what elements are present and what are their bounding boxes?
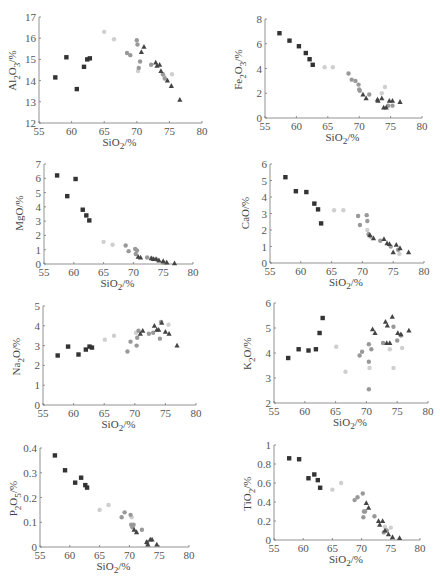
x-tick-label: 80 <box>415 542 427 554</box>
x-tick-label: 75 <box>385 542 397 554</box>
x-tick-label: 60 <box>68 407 80 419</box>
data-point-triangle <box>381 236 386 241</box>
y-tick-label: 4 <box>266 347 272 359</box>
data-point-triangle <box>394 242 399 247</box>
data-point-square <box>64 55 68 59</box>
data-point-circle <box>367 360 371 364</box>
data-point-circle <box>102 30 106 34</box>
data-point-circle <box>355 495 359 499</box>
y-tick-label: 1 <box>266 439 272 451</box>
data-point-square <box>306 476 310 480</box>
y-tick-label: 0.4 <box>23 442 37 454</box>
data-point-triangle <box>154 542 159 547</box>
data-point-circle <box>331 65 335 69</box>
data-point-circle <box>322 65 326 69</box>
data-point-square <box>306 348 310 352</box>
data-point-circle <box>128 53 132 57</box>
plot-area: 55606570758002468 <box>220 0 440 145</box>
data-point-circle <box>397 252 401 256</box>
data-point-circle <box>367 342 371 346</box>
y-tick-label: 5 <box>36 187 42 199</box>
x-tick-label: 75 <box>154 549 166 561</box>
data-point-circle <box>365 228 369 232</box>
data-point-square <box>76 352 80 356</box>
data-point-square <box>82 65 86 69</box>
x-axis-label: SiO2/% <box>329 553 363 568</box>
data-point-circle <box>367 366 371 370</box>
data-point-circle <box>97 508 101 512</box>
y-tick-label: 12 <box>25 117 36 129</box>
scatter-panel-fe2o3: 55606570758002468SiO2/%Fe2O3/% <box>220 0 440 145</box>
y-tick-label: 0.8 <box>257 458 271 470</box>
data-point-square <box>84 213 88 217</box>
y-tick-label: 0 <box>36 258 42 270</box>
x-tick-label: 60 <box>298 542 310 554</box>
data-point-circle <box>341 208 345 212</box>
x-tick-label: 80 <box>188 266 200 278</box>
data-point-square <box>65 194 69 198</box>
y-tick-label: 0 <box>262 257 268 269</box>
data-point-circle <box>388 347 392 351</box>
x-axis-label: SiO2/% <box>97 560 131 575</box>
y-tick-label: 4 <box>36 201 42 213</box>
y-tick-label: 16 <box>25 32 37 44</box>
data-point-triangle <box>406 249 411 254</box>
data-point-circle <box>138 59 142 63</box>
data-point-circle <box>334 345 338 349</box>
data-point-triangle <box>177 97 182 102</box>
y-tick-label: 14 <box>25 75 37 87</box>
data-point-circle <box>356 82 360 86</box>
data-point-circle <box>170 72 174 76</box>
x-tick-label: 75 <box>385 120 397 132</box>
data-point-square <box>90 345 94 349</box>
data-point-circle <box>135 248 139 252</box>
scatter-panel-mgo: 55606570758001234567SiO2/%MgO/% <box>0 140 220 285</box>
data-point-triangle <box>139 49 144 54</box>
data-point-circle <box>383 85 387 89</box>
data-point-circle <box>122 510 126 514</box>
data-point-square <box>320 316 324 320</box>
x-tick-label: 75 <box>392 405 404 417</box>
data-point-circle <box>369 347 373 351</box>
data-point-triangle <box>153 60 158 65</box>
x-tick-label: 60 <box>291 120 303 132</box>
data-point-circle <box>358 89 362 93</box>
y-tick-label: 3 <box>266 372 272 384</box>
y-tick-label: 0.6 <box>257 477 271 489</box>
y-tick-label: 3 <box>35 340 41 352</box>
y-tick-label: 2 <box>266 397 272 409</box>
data-point-square <box>314 347 318 351</box>
y-tick-label: 0.4 <box>257 496 271 508</box>
data-point-circle <box>131 523 135 527</box>
data-point-triangle <box>397 535 402 540</box>
data-point-circle <box>395 338 399 342</box>
data-point-square <box>286 356 290 360</box>
data-point-circle <box>390 103 394 107</box>
y-tick-label: 0 <box>35 399 41 411</box>
data-point-square <box>88 56 92 60</box>
data-point-circle <box>137 66 141 70</box>
x-tick-label: 60 <box>299 405 311 417</box>
data-point-circle <box>361 491 365 495</box>
data-point-square <box>316 207 320 211</box>
x-tick-label: 75 <box>388 265 400 277</box>
data-point-triangle <box>163 329 168 334</box>
y-axis-label: Al2O3/% <box>6 41 21 101</box>
y-tick-label: 3 <box>262 208 268 220</box>
plot-area: 55606570758000.10.20.30.4 <box>0 425 220 570</box>
x-tick-label: 75 <box>160 407 172 419</box>
data-point-circle <box>380 91 384 95</box>
y-axis-label: MgO/% <box>13 183 25 243</box>
y-axis-label: Na2O/% <box>10 326 25 386</box>
x-tick-label: 80 <box>197 125 209 137</box>
data-point-square <box>53 75 57 79</box>
data-point-square <box>311 63 315 67</box>
data-point-circle <box>363 509 367 513</box>
data-point-triangle <box>172 260 177 265</box>
data-point-triangle <box>141 44 146 49</box>
data-point-circle <box>400 346 404 350</box>
data-point-circle <box>123 243 127 247</box>
data-point-triangle <box>370 326 375 331</box>
data-point-square <box>297 44 301 48</box>
y-tick-label: 4 <box>262 191 268 203</box>
